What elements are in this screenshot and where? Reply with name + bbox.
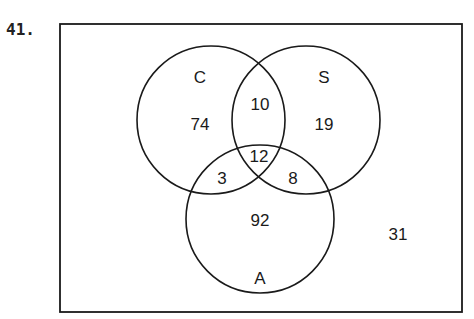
venn-diagram: C S A 74 19 92 10 3 8 12 31 [0, 0, 474, 319]
value-c-s: 10 [251, 95, 270, 114]
value-outside: 31 [389, 225, 408, 244]
label-s: S [318, 68, 329, 87]
value-a-only: 92 [251, 211, 270, 230]
circle-c [137, 46, 285, 194]
value-s-a: 8 [288, 169, 297, 188]
value-c-s-a: 12 [250, 147, 269, 166]
label-c: C [194, 68, 206, 87]
label-a: A [254, 269, 266, 288]
value-c-only: 74 [191, 115, 210, 134]
circle-s [232, 46, 380, 194]
value-s-only: 19 [315, 115, 334, 134]
value-c-a: 3 [217, 169, 226, 188]
